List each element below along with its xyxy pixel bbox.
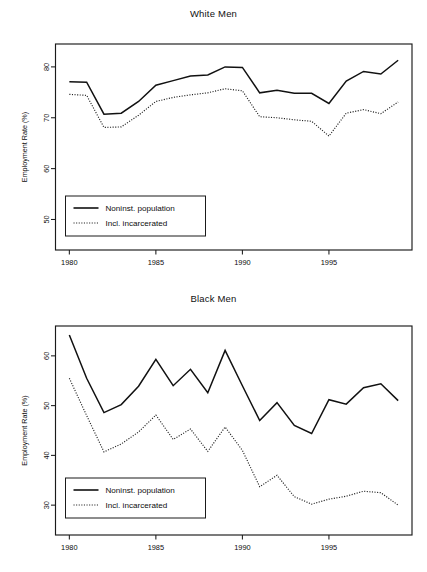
y-axis-title: Employment Rate (%) — [20, 395, 29, 465]
line-chart-white-men: 506070801980198519901995Employment Rate … — [0, 0, 427, 286]
y-axis-tick-label: 80 — [42, 63, 51, 71]
y-axis-tick-label: 50 — [42, 215, 51, 223]
y-axis-tick-label: 30 — [42, 501, 51, 509]
y-axis-title: Employment Rate (%) — [20, 112, 29, 182]
x-axis-tick-label: 1985 — [148, 258, 164, 267]
chart-legend — [66, 478, 206, 518]
x-axis-tick-label: 1980 — [61, 543, 77, 552]
y-axis-tick-label: 70 — [42, 114, 51, 122]
legend-item-label: Incl. incarcerated — [106, 501, 168, 510]
chart-panel-white-men: White Men 506070801980198519901995Employ… — [0, 0, 427, 286]
x-axis-tick-label: 1985 — [148, 543, 164, 552]
x-axis-tick-label: 1995 — [321, 258, 337, 267]
y-axis-tick-label: 40 — [42, 451, 51, 459]
x-axis-tick-label: 1990 — [234, 258, 250, 267]
x-axis-tick-label: 1980 — [61, 258, 77, 267]
x-axis-tick-label: 1995 — [321, 543, 337, 552]
line-chart-black-men: 304050601980198519901995Employment Rate … — [0, 286, 427, 572]
y-axis-tick-label: 50 — [42, 402, 51, 410]
chart-panel-black-men: Black Men 304050601980198519901995Employ… — [0, 286, 427, 572]
x-axis-tick-label: 1990 — [234, 543, 250, 552]
series-line-solid — [69, 60, 398, 114]
y-axis-tick-label: 60 — [42, 165, 51, 173]
legend-item-label: Noninst. population — [106, 486, 175, 495]
y-axis-tick-label: 60 — [42, 352, 51, 360]
chart-legend — [66, 196, 206, 236]
legend-item-label: Incl. incarcerated — [106, 219, 168, 228]
legend-item-label: Noninst. population — [106, 204, 175, 213]
series-line-solid — [69, 335, 398, 434]
series-line-dotted — [69, 89, 398, 136]
